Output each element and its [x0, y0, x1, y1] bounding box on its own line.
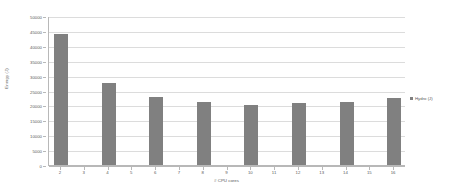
- y-axis-tick-label: 20000: [30, 104, 42, 109]
- y-axis-tick-label: 45000: [30, 29, 42, 34]
- y-axis-tick-mark: [43, 47, 46, 48]
- x-axis-tick-mark: [274, 167, 275, 170]
- x-axis-tick-label: 6: [154, 170, 156, 175]
- y-axis-tick-label: 35000: [30, 59, 42, 64]
- y-axis-tick-label: 10000: [30, 134, 42, 139]
- y-axis-tick-mark: [43, 32, 46, 33]
- x-axis-tick-mark: [322, 167, 323, 170]
- bar: [149, 97, 163, 165]
- y-axis-tick-mark: [43, 92, 46, 93]
- x-axis-tick-labels: 2345678910111213141516: [48, 167, 405, 177]
- y-axis-tick-mark: [43, 106, 46, 107]
- bar: [387, 98, 401, 165]
- y-axis-tick-label: 50000: [30, 15, 42, 20]
- legend-swatch-icon: [410, 97, 413, 100]
- y-axis-tick-mark: [43, 121, 46, 122]
- y-axis-tick-label: 5000: [32, 149, 42, 154]
- x-axis-tick-label: 16: [391, 170, 396, 175]
- y-axis-tick-mark: [43, 166, 46, 167]
- x-axis-tick-label: 13: [319, 170, 324, 175]
- y-axis-tick-labels: 5000045000400003500030000250002000015000…: [0, 17, 46, 166]
- x-axis-tick-label: 5: [130, 170, 132, 175]
- bars-layer: [49, 17, 405, 165]
- x-axis-tick-label: 15: [367, 170, 372, 175]
- bar: [197, 102, 211, 165]
- x-axis-tick-mark: [298, 167, 299, 170]
- x-axis-tick-mark: [84, 167, 85, 170]
- x-axis-tick-label: 8: [201, 170, 203, 175]
- y-axis-tick-mark: [43, 17, 46, 18]
- x-axis-tick-mark: [179, 167, 180, 170]
- x-axis-tick-mark: [60, 167, 61, 170]
- plot-area: [48, 17, 405, 166]
- bar: [340, 102, 354, 165]
- bar-chart: Energy (J) 50000450004000035000300002500…: [0, 0, 463, 193]
- x-axis-tick-mark: [227, 167, 228, 170]
- x-axis-tick-label: 10: [248, 170, 253, 175]
- y-axis-tick-label: 15000: [30, 119, 42, 124]
- bar: [54, 34, 68, 165]
- x-axis-tick-mark: [155, 167, 156, 170]
- x-axis-tick-label: 12: [296, 170, 301, 175]
- x-axis-tick-mark: [108, 167, 109, 170]
- y-axis-tick-label: 30000: [30, 74, 42, 79]
- bar: [244, 105, 258, 165]
- x-axis-tick-mark: [250, 167, 251, 170]
- y-axis-tick-mark: [43, 62, 46, 63]
- x-axis-tick-mark: [203, 167, 204, 170]
- x-axis-tick-label: 9: [225, 170, 227, 175]
- x-axis-tick-label: 2: [59, 170, 61, 175]
- x-axis-tick-mark: [369, 167, 370, 170]
- bar: [102, 83, 116, 165]
- y-axis-tick-label: 40000: [30, 44, 42, 49]
- x-axis-tick-mark: [346, 167, 347, 170]
- y-axis-tick-label: 25000: [30, 89, 42, 94]
- x-axis-title: # CPU cores: [48, 178, 405, 183]
- x-axis-tick-label: 4: [106, 170, 108, 175]
- x-axis-tick-label: 11: [272, 170, 276, 175]
- x-axis-tick-mark: [393, 167, 394, 170]
- chart-legend: Hydro (J): [410, 96, 433, 101]
- x-axis-tick-label: 14: [343, 170, 348, 175]
- x-axis-tick-label: 7: [178, 170, 180, 175]
- y-axis-tick-mark: [43, 136, 46, 137]
- x-axis-tick-mark: [131, 167, 132, 170]
- y-axis-tick-mark: [43, 151, 46, 152]
- x-axis-tick-label: 3: [82, 170, 84, 175]
- y-axis-tick-label: 0: [40, 164, 42, 169]
- legend-label: Hydro (J): [415, 96, 433, 101]
- bar: [292, 103, 306, 165]
- y-axis-tick-mark: [43, 77, 46, 78]
